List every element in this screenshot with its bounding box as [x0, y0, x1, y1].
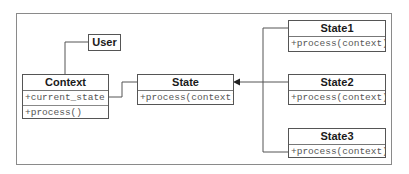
- class-context-method: +process(): [23, 105, 108, 120]
- class-state3-name: State3: [289, 129, 385, 145]
- class-state1: State1 +process(context): [288, 20, 386, 52]
- diagram-canvas: User Context +current_state +process() S…: [0, 0, 409, 174]
- class-context-attribute: +current_state: [23, 91, 108, 105]
- class-user-name: User: [92, 36, 116, 48]
- class-state1-name: State1: [289, 21, 385, 37]
- class-state2: State2 +process(context): [288, 74, 386, 105]
- class-state3: State3 +process(context): [288, 128, 386, 158]
- class-user: User: [88, 34, 121, 51]
- state1-generalization: [263, 28, 288, 152]
- class-state2-name: State2: [289, 75, 385, 91]
- class-state-method: +process(context): [138, 91, 233, 105]
- class-state1-method: +process(context): [289, 37, 385, 51]
- class-state: State +process(context): [137, 74, 234, 105]
- class-state3-method: +process(context): [289, 145, 385, 159]
- context-state-association: [108, 82, 137, 97]
- class-context: Context +current_state +process(): [22, 74, 109, 119]
- user-context-association: [65, 42, 88, 74]
- class-context-name: Context: [23, 75, 108, 91]
- class-state2-method: +process(context): [289, 91, 385, 105]
- class-state-name: State: [138, 75, 233, 91]
- generalization-arrowhead-icon: [233, 79, 240, 86]
